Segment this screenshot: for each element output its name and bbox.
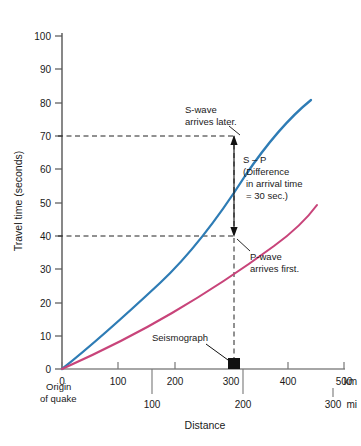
- x-label-km-100: 100: [110, 376, 127, 387]
- x-axis-title: Distance: [185, 419, 226, 431]
- s-wave-annotation-line-2: arrives later.: [185, 116, 237, 127]
- x-label-km-200: 200: [167, 376, 184, 387]
- seismograph-marker: [228, 358, 240, 369]
- x-unit-mi: mi: [346, 399, 357, 410]
- y-label-90: 90: [40, 64, 52, 75]
- s-minus-p-line-4: = 30 sec.): [246, 190, 288, 201]
- x-label-mi-300: 300: [325, 399, 342, 410]
- y-label-70: 70: [40, 131, 52, 142]
- x-label-mi-100: 100: [144, 399, 161, 410]
- x-unit-km: km: [344, 376, 357, 387]
- s-minus-p-line-3: in arrival time: [246, 178, 303, 189]
- y-label-60: 60: [40, 164, 52, 175]
- x-label-km-300: 300: [223, 376, 240, 387]
- p-wave-annotation-line-1: P-wave: [250, 251, 282, 262]
- x-label-km-400: 400: [280, 376, 297, 387]
- origin-of-quake-label: Origin of quake: [40, 381, 76, 404]
- y-label-100: 100: [34, 31, 51, 42]
- s-wave-annotation-line-1: S-wave: [185, 104, 217, 115]
- seismograph-annotation: Seismograph: [152, 332, 208, 343]
- y-label-40: 40: [40, 231, 52, 242]
- origin-line-1: Origin: [46, 381, 71, 392]
- y-label-20: 20: [40, 298, 52, 309]
- origin-line-2: of quake: [40, 393, 76, 404]
- y-label-50: 50: [40, 198, 52, 209]
- s-minus-p-line-2: (Difference: [243, 166, 289, 177]
- y-label-80: 80: [40, 98, 52, 109]
- y-label-0: 0: [45, 364, 51, 375]
- x-label-mi-200: 200: [235, 399, 252, 410]
- s-minus-p-line-1: S – P: [243, 154, 266, 165]
- y-label-30: 30: [40, 264, 52, 275]
- y-label-10: 10: [40, 331, 52, 342]
- p-wave-annotation-line-2: arrives first.: [250, 263, 299, 274]
- travel-time-chart: 100 90 80 70 60 50 40 30 20 10 0 Travel …: [0, 0, 361, 446]
- y-axis-title: Travel time (seconds): [12, 151, 24, 252]
- chart-svg: 100 90 80 70 60 50 40 30 20 10 0 Travel …: [0, 0, 361, 446]
